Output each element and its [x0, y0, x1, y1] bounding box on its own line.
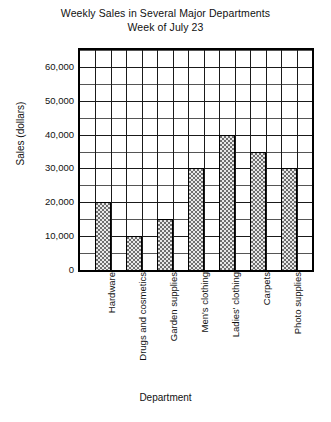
y-axis-tick-label: 10,000 — [2, 231, 74, 241]
chart-title-line-1: Weekly Sales in Several Major Department… — [0, 6, 331, 20]
y-axis-tick-label: 50,000 — [2, 96, 74, 106]
x-axis-tick-label: Photo supplies — [293, 272, 304, 334]
bar — [250, 152, 265, 270]
x-axis-tick-label: Garden supplies — [169, 272, 180, 341]
bar-series — [80, 50, 312, 270]
x-axis-tick-label: Carpets — [262, 272, 273, 305]
bar — [219, 135, 234, 270]
x-axis-tick-labels: HardwareDrugs and cosmeticsGarden suppli… — [78, 272, 314, 380]
chart-title: Weekly Sales in Several Major Department… — [0, 6, 331, 34]
x-axis-tick-label: Hardware — [107, 272, 118, 313]
bar — [188, 168, 203, 270]
bar — [281, 168, 296, 270]
bar — [95, 202, 110, 270]
plot-area — [78, 48, 314, 272]
bar — [157, 219, 172, 270]
y-axis-tick-label: 20,000 — [2, 197, 74, 207]
bar — [126, 236, 141, 270]
x-axis-tick-label: Men's clothing — [200, 272, 211, 332]
y-axis-tick-labels: 010,00020,00030,00040,00050,00060,000 — [0, 48, 74, 272]
y-axis-tick-label: 0 — [2, 265, 74, 275]
y-axis-tick-label: 60,000 — [2, 62, 74, 72]
x-axis-tick-label: Ladies' clothing — [231, 272, 242, 337]
chart-title-line-2: Week of July 23 — [0, 20, 331, 34]
y-axis-tick-label: 30,000 — [2, 163, 74, 173]
x-axis-tick-label: Drugs and cosmetics — [138, 272, 149, 361]
x-axis-title: Department — [0, 392, 331, 403]
y-axis-tick-label: 40,000 — [2, 130, 74, 140]
